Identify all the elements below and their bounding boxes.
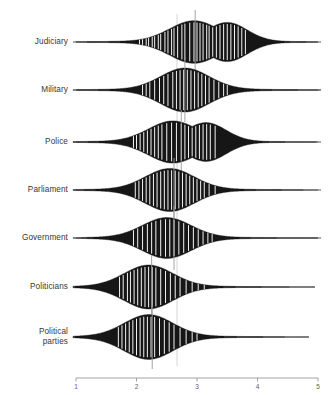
violin-police bbox=[73, 110, 321, 174]
category-label: Police bbox=[0, 137, 68, 147]
violin-political-parties bbox=[73, 305, 309, 369]
category-label: Judiciary bbox=[0, 37, 68, 47]
category-label: Military bbox=[0, 85, 68, 95]
category-label: Politicians bbox=[0, 282, 68, 292]
x-tick-label: 2 bbox=[135, 383, 139, 390]
violin-military bbox=[73, 58, 321, 122]
category-label: Government bbox=[0, 233, 68, 243]
violin-judiciary bbox=[73, 10, 321, 74]
category-label: Parliament bbox=[0, 185, 68, 195]
violin-government bbox=[73, 206, 321, 270]
x-tick-label: 5 bbox=[316, 383, 320, 390]
violin-plot-chart: JudiciaryMilitaryPoliceParliamentGovernm… bbox=[0, 0, 333, 395]
category-label: Political parties bbox=[0, 327, 68, 347]
x-tick-label: 3 bbox=[195, 383, 199, 390]
x-tick-label: 1 bbox=[74, 383, 78, 390]
violin-parliament bbox=[73, 158, 321, 222]
x-tick-label: 4 bbox=[256, 383, 260, 390]
violin-politicians bbox=[73, 255, 315, 319]
